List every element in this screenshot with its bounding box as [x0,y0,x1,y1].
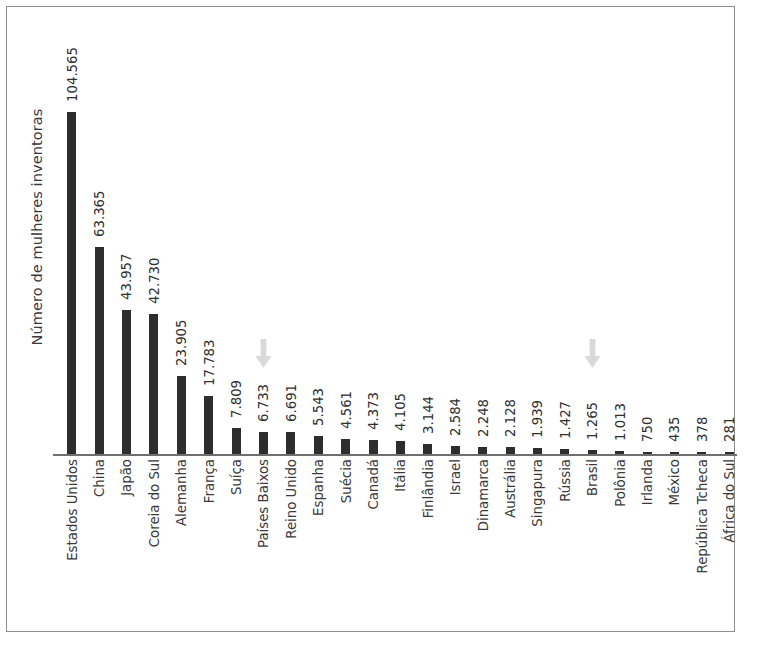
bar-value-label: 23.905 [174,319,189,366]
category-label-17: Austrália [496,459,523,460]
bar-value-label: 4.373 [366,392,381,430]
category-label-9: Reino Unido [277,459,304,460]
category-label-4: Coreia do Sul [140,459,167,460]
category-label-10: Espanha [305,459,332,460]
bar-rect [286,432,295,454]
category-label-24: República Tcheca [688,459,715,460]
bar-16: 2.248 [469,447,496,454]
category-label-2: China [85,459,112,460]
bar-12: 4.373 [359,440,386,454]
bar-rect [95,247,104,454]
category-label-6: França [195,459,222,460]
category-label-text: Irlanda [640,459,655,505]
category-label-13: Itália [387,459,414,460]
category-label-20: Brasil [579,459,606,460]
category-label-text: Singapura [530,459,545,527]
bar-rect [369,440,378,454]
category-label-19: Rússia [551,459,578,460]
bar-value-label: 4.561 [338,391,353,429]
bar-value-label: 104.565 [64,47,79,102]
category-label-text: Dinamarca [475,459,490,531]
category-label-22: Irlanda [633,459,660,460]
category-label-text: Brasil [585,459,600,496]
plot-area: 104.56563.36543.95742.73023.90517.7837.8… [53,19,737,455]
category-label-text: Reino Unido [283,459,298,539]
bar-value-label: 1.939 [530,400,545,438]
bar-rect [177,376,186,454]
category-label-text: Coreia do Sul [146,459,161,547]
bar-value-label: 750 [640,417,655,442]
bar-10: 5.543 [305,436,332,454]
bar-rect [396,441,405,454]
bar-3: 43.957 [113,310,140,454]
category-label-1: Estados Unidos [58,459,85,460]
bar-7: 7.809 [222,428,249,454]
bar-value-label: 7.809 [229,380,244,418]
category-label-text: França [201,459,216,503]
x-axis-line [53,454,737,456]
category-label-21: Polônia [606,459,633,460]
bar-value-label: 1.427 [557,401,572,439]
bar-value-label: 5.543 [311,388,326,426]
bar-11: 4.561 [332,439,359,454]
category-label-text: Espanha [311,459,326,516]
bar-rect [232,428,241,454]
category-label-text: Estados Unidos [64,459,79,561]
bar-value-label: 281 [722,417,737,442]
bar-value-label: 6.691 [283,384,298,422]
bar-17: 2.128 [496,447,523,454]
category-label-18: Singapura [524,459,551,460]
category-label-text: México [667,459,682,505]
category-label-text: Suécia [338,459,353,503]
bar-rect [67,112,76,454]
category-label-text: Polônia [612,459,627,507]
category-label-text: Japão [119,459,134,496]
category-label-text: Canadá [366,459,381,510]
bar-rect [451,446,460,454]
category-label-7: Suíça [222,459,249,460]
category-label-3: Japão [113,459,140,460]
bar-4: 42.730 [140,314,167,454]
category-label-text: Austrália [503,459,518,518]
bar-13: 4.105 [387,441,414,454]
category-label-text: Alemanha [174,459,189,526]
bar-rect [259,432,268,454]
bar-value-label: 2.584 [448,398,463,436]
bar-5: 23.905 [168,376,195,454]
bar-rect [149,314,158,454]
category-label-text: Itália [393,459,408,492]
category-label-text: Finlândia [420,459,435,518]
category-label-14: Finlândia [414,459,441,460]
category-label-text: Países Baixos [256,459,271,548]
category-label-12: Canadá [359,459,386,460]
bar-value-label: 2.248 [475,399,490,437]
bar-2: 63.365 [85,247,112,454]
bar-value-label: 42.730 [146,257,161,304]
bar-value-label: 6.733 [256,384,271,422]
bar-rect [204,396,213,454]
bar-8: 6.733 [250,432,277,454]
category-label-text: Suíça [229,459,244,495]
category-label-25: África do Sul [716,459,743,460]
chart-frame: Número de mulheres inventoras 104.56563.… [6,6,735,632]
category-label-5: Alemanha [168,459,195,460]
bar-value-label: 1.265 [585,402,600,440]
category-label-text: República Tcheca [694,459,709,573]
down-arrow-icon-brasil [584,339,601,369]
category-label-11: Suécia [332,459,359,460]
bar-9: 6.691 [277,432,304,454]
category-label-16: Dinamarca [469,459,496,460]
bar-1: 104.565 [58,112,85,454]
category-label-text: China [92,459,107,497]
bar-rect [478,447,487,454]
bar-6: 17.783 [195,396,222,454]
bar-value-label: 43.957 [119,253,134,300]
bar-rect [423,444,432,454]
category-label-text: África do Sul [722,459,737,543]
category-label-8: Países Baixos [250,459,277,460]
bar-value-label: 4.105 [393,393,408,431]
bar-value-label: 63.365 [92,190,107,237]
bar-14: 3.144 [414,444,441,454]
y-axis-title: Número de mulheres inventoras [29,77,45,377]
bar-rect [506,447,515,454]
